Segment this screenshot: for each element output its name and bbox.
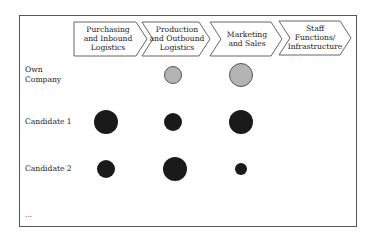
label-line: and Outbound xyxy=(148,34,206,43)
bubble-c2-marketing xyxy=(235,163,247,175)
label-line: Candidate 2 xyxy=(25,164,72,174)
label-line: Functions/ xyxy=(284,33,346,42)
label-line: Logistics xyxy=(148,43,206,52)
label-line: Marketing xyxy=(218,30,276,39)
bubble-c1-production xyxy=(164,113,182,131)
activity-staff-label: Staff Functions/ Infrastructure xyxy=(284,24,346,51)
bubble-own-marketing xyxy=(229,63,253,87)
row-label-candidate-1: Candidate 1 xyxy=(25,117,72,127)
label-line: Production xyxy=(148,25,206,34)
activity-production-label: Production and Outbound Logistics xyxy=(148,25,206,52)
bubble-c1-marketing xyxy=(229,110,253,134)
label-line: Own xyxy=(25,65,61,75)
bubble-c2-purchasing xyxy=(97,160,115,178)
row-label-candidate-2: Candidate 2 xyxy=(25,164,72,174)
label-line: Infrastructure xyxy=(284,42,346,51)
label-line: Company xyxy=(25,75,61,85)
bubble-own-production xyxy=(164,66,182,84)
row-label-ellipsis: ... xyxy=(25,210,32,220)
row-label-own-company: Own Company xyxy=(25,65,61,85)
bubble-c2-production xyxy=(163,157,187,181)
label-line: Staff xyxy=(284,24,346,33)
activity-purchasing-label: Purchasing and Inbound Logistics xyxy=(78,25,138,52)
label-line: Purchasing xyxy=(78,25,138,34)
label-line: and Sales xyxy=(218,39,276,48)
label-line: Candidate 1 xyxy=(25,117,72,127)
bubble-c1-purchasing xyxy=(94,110,118,134)
activity-marketing-label: Marketing and Sales xyxy=(218,30,276,48)
label-line: ... xyxy=(25,210,32,220)
label-line: Logistics xyxy=(78,43,138,52)
label-line: and Inbound xyxy=(78,34,138,43)
